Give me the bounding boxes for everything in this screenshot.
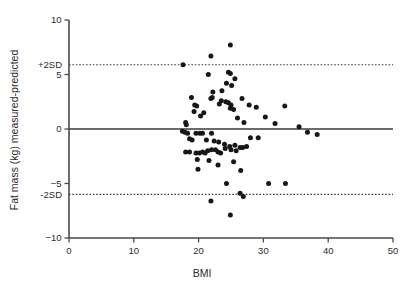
data-point	[195, 157, 200, 162]
y-tick-label: −5	[51, 178, 62, 189]
x-tick-label: 40	[323, 245, 334, 256]
data-point	[210, 89, 215, 94]
data-point	[228, 213, 233, 218]
data-point	[224, 81, 229, 86]
data-point	[228, 43, 233, 48]
y-tick-label: 0	[56, 123, 61, 134]
data-point	[218, 150, 223, 155]
data-point	[208, 96, 213, 101]
data-point	[263, 115, 268, 120]
data-point	[229, 83, 234, 88]
data-point	[185, 131, 190, 136]
chart-figure: +2SD-2SD1050−5−1001020304050 BMI Fat mas…	[0, 0, 404, 288]
y-axis-title: Fat mass (kg) measured-predicted	[8, 50, 20, 211]
data-point	[248, 135, 253, 140]
data-point	[206, 158, 211, 163]
data-point	[222, 142, 227, 147]
data-point	[195, 167, 200, 172]
data-point	[273, 121, 278, 126]
x-tick-label: 0	[66, 245, 71, 256]
data-point	[228, 71, 233, 76]
data-point	[208, 53, 213, 58]
y-tick-label: 5	[56, 69, 61, 80]
data-point	[231, 159, 236, 164]
data-point	[219, 88, 224, 93]
data-point	[190, 137, 195, 142]
data-point	[235, 116, 240, 121]
data-point	[200, 131, 205, 136]
data-point	[192, 109, 197, 114]
data-point	[256, 135, 261, 140]
data-point	[305, 130, 310, 135]
data-point	[223, 146, 228, 151]
data-point	[238, 168, 243, 173]
data-point	[198, 113, 203, 118]
data-point	[315, 132, 320, 137]
data-point	[247, 103, 252, 108]
x-tick-label: 20	[193, 245, 204, 256]
data-point	[208, 198, 213, 203]
data-point	[241, 194, 246, 199]
data-point	[282, 104, 287, 109]
data-point	[297, 124, 302, 129]
data-point	[234, 148, 239, 153]
data-point	[189, 95, 194, 100]
x-tick-label: 30	[258, 245, 269, 256]
lower-limit-of-agreement-label: -2SD	[40, 189, 62, 200]
data-point	[181, 62, 186, 67]
y-tick-label: 10	[51, 14, 62, 25]
data-point	[206, 72, 211, 77]
data-point	[232, 143, 237, 148]
x-axis-title: BMI	[193, 267, 212, 279]
data-point	[216, 162, 221, 167]
data-point	[216, 140, 221, 145]
data-point	[232, 76, 237, 81]
data-point	[187, 149, 192, 154]
x-tick-label: 50	[388, 245, 399, 256]
y-tick-label: −10	[45, 232, 61, 243]
data-point	[254, 105, 259, 110]
data-point	[266, 181, 271, 186]
data-point	[224, 181, 229, 186]
data-point	[212, 138, 217, 143]
data-point	[283, 181, 288, 186]
data-point	[217, 101, 222, 106]
data-point	[231, 107, 236, 112]
data-point	[241, 120, 246, 125]
data-point	[194, 104, 199, 109]
data-point	[209, 131, 214, 136]
data-point	[204, 137, 209, 142]
x-tick-label: 10	[129, 245, 140, 256]
data-point	[244, 144, 249, 149]
scatter-plot: +2SD-2SD1050−5−1001020304050 BMI Fat mas…	[0, 0, 404, 288]
data-point	[240, 96, 245, 101]
data-point	[184, 122, 189, 127]
data-point	[229, 147, 234, 152]
